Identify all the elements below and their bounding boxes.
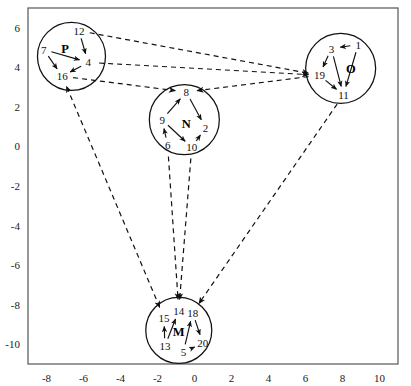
- intra-edge-O-3-11: [333, 56, 341, 86]
- node-label-5: 5: [181, 347, 187, 358]
- figure-root: 712416P892610N131911O15141813520M -8-6-4…: [0, 0, 411, 386]
- node-label-20: 20: [197, 338, 208, 349]
- intra-edge-O-1-3: [340, 46, 350, 47]
- inter-edge-N6-M14: [168, 156, 178, 299]
- inter-edge-P12-O19: [90, 33, 309, 73]
- inter-edge-O19-N8: [197, 77, 308, 91]
- y-axis-tick-label: 4: [0, 61, 20, 73]
- node-label-18: 18: [187, 307, 198, 318]
- intra-edge-P-4-16: [70, 66, 81, 72]
- inter-edge-P4-O19: [99, 63, 308, 75]
- node-label-13: 13: [159, 341, 170, 352]
- inter-edge-O11-M18: [199, 104, 337, 303]
- plot-frame: [28, 8, 398, 364]
- x-axis-tick-label: -4: [116, 372, 125, 384]
- cluster-circle-P: [37, 22, 105, 90]
- intra-edge-M-5-20: [191, 347, 195, 349]
- inter-edge-N10-M14: [180, 158, 191, 299]
- node-label-14: 14: [173, 305, 184, 316]
- cluster-label-M: M: [173, 326, 185, 339]
- y-axis-tick-label: -6: [0, 259, 20, 271]
- x-axis-tick-label: -6: [79, 372, 88, 384]
- cluster-label-N: N: [182, 117, 191, 130]
- y-axis-tick-label: 6: [0, 22, 20, 34]
- cluster-label-P: P: [61, 42, 69, 55]
- diagram-canvas: [0, 0, 411, 386]
- node-label-11: 11: [338, 90, 349, 101]
- intra-edge-M-18-20: [195, 320, 200, 335]
- node-label-4: 4: [85, 57, 91, 68]
- inter-edge-M15-P16: [66, 86, 159, 307]
- y-axis-tick-label: -4: [0, 220, 20, 232]
- y-axis-tick-label: -8: [0, 299, 20, 311]
- x-axis-tick-label: 0: [192, 372, 198, 384]
- intra-edge-O-19-11: [326, 80, 337, 89]
- node-label-2: 2: [203, 122, 209, 133]
- y-axis-tick-label: -2: [0, 180, 20, 192]
- x-axis-tick-label: 10: [374, 372, 385, 384]
- node-label-3: 3: [329, 43, 335, 54]
- x-axis-tick-label: 6: [303, 372, 309, 384]
- intra-edge-P-12-4: [81, 38, 85, 53]
- x-axis-tick-label: 8: [340, 372, 346, 384]
- x-axis-tick-label: -2: [153, 372, 162, 384]
- node-label-10: 10: [186, 142, 197, 153]
- cluster-label-O: O: [346, 63, 356, 76]
- node-label-15: 15: [158, 312, 169, 323]
- y-axis-tick-label: 2: [0, 101, 20, 113]
- intra-edge-N-8-2: [190, 99, 201, 120]
- inter-cluster-edge-layer: [66, 33, 337, 308]
- plot-border: [28, 8, 398, 364]
- cluster-circle-layer: [37, 22, 375, 363]
- node-label-16: 16: [57, 71, 68, 82]
- x-axis-tick-label: 4: [266, 372, 272, 384]
- node-label-9: 9: [159, 114, 165, 125]
- node-label-19: 19: [314, 70, 325, 81]
- intra-edge-N-6-9: [164, 129, 166, 138]
- node-label-8: 8: [183, 87, 189, 98]
- y-axis-tick-label: 0: [0, 140, 20, 152]
- x-axis-tick-label: 2: [229, 372, 235, 384]
- intra-edge-P-7-16: [48, 56, 57, 69]
- inter-edge-P16-N8: [73, 78, 175, 91]
- node-label-12: 12: [73, 25, 84, 36]
- node-label-7: 7: [41, 44, 47, 55]
- node-label-1: 1: [355, 39, 361, 50]
- intra-edge-O-3-19: [323, 56, 328, 67]
- y-axis-tick-label: -10: [0, 338, 20, 350]
- intra-edge-N-9-8: [167, 99, 180, 114]
- x-axis-tick-label: -8: [42, 372, 51, 384]
- intra-edge-M-5-18: [185, 321, 190, 344]
- node-label-6: 6: [165, 140, 171, 151]
